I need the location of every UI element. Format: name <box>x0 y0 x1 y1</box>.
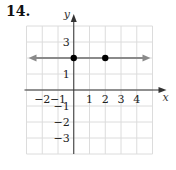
x-tick-label: 1 <box>86 93 93 106</box>
y-tick-label: −2 <box>54 116 70 129</box>
y-tick-label: 1 <box>63 68 70 81</box>
x-tick-label: 2 <box>102 93 109 106</box>
x-tick-label: 3 <box>118 93 125 106</box>
y-tick-label: −3 <box>54 132 70 145</box>
y-tick-label: −1 <box>54 100 70 113</box>
axes: xy <box>25 8 170 154</box>
y-axis-arrow-icon <box>71 14 77 22</box>
data-point <box>71 55 77 61</box>
y-axis-label: y <box>63 8 71 21</box>
y-tick-label: 3 <box>63 36 70 49</box>
line-arrow-right-icon <box>143 55 151 62</box>
x-tick-label: −2 <box>34 93 50 106</box>
chart: xy −2−1123431−1−2−3 <box>0 0 176 170</box>
data-point <box>102 55 108 61</box>
line-arrow-left-icon <box>29 55 37 62</box>
x-axis-label: x <box>163 91 170 104</box>
x-tick-label: 4 <box>133 93 140 106</box>
